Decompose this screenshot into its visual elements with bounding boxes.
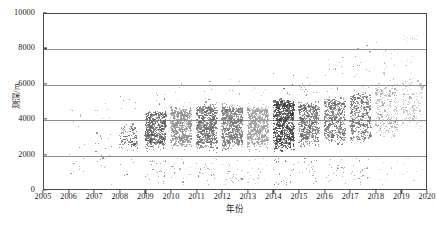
x-tick-2013: 2013 bbox=[239, 193, 256, 201]
x-tick-2014: 2014 bbox=[265, 193, 282, 201]
scatter-chart-figure: 测深/m 0200040006000800010000 200520062007… bbox=[0, 0, 439, 233]
y-tick-mark-0 bbox=[43, 189, 47, 190]
x-tick-2005: 2005 bbox=[35, 193, 52, 201]
x-tick-mark-2008 bbox=[119, 190, 120, 194]
x-tick-2010: 2010 bbox=[163, 193, 180, 201]
x-axis-title: 年份 bbox=[43, 205, 427, 214]
y-tick-10000: 10000 bbox=[14, 9, 35, 17]
y-tick-mark-6000 bbox=[43, 83, 47, 84]
y-tick-mark-4000 bbox=[43, 119, 47, 120]
x-tick-mark-2009 bbox=[145, 190, 146, 194]
x-tick-2016: 2016 bbox=[316, 193, 333, 201]
x-tick-mark-2017 bbox=[350, 190, 351, 194]
x-tick-mark-2014 bbox=[273, 190, 274, 194]
y-tick-6000: 6000 bbox=[18, 80, 35, 88]
x-tick-mark-2020 bbox=[426, 190, 427, 194]
x-tick-mark-2006 bbox=[68, 190, 69, 194]
x-tick-mark-2011 bbox=[196, 190, 197, 194]
x-tick-mark-2012 bbox=[222, 190, 223, 194]
x-tick-2011: 2011 bbox=[188, 193, 204, 201]
x-tick-mark-2007 bbox=[94, 190, 95, 194]
y-tick-2000: 2000 bbox=[18, 150, 35, 158]
x-tick-mark-2016 bbox=[324, 190, 325, 194]
y-axis-tick-labels: 0200040006000800010000 bbox=[0, 13, 40, 190]
x-tick-2018: 2018 bbox=[367, 193, 384, 201]
x-tick-mark-2019 bbox=[401, 190, 402, 194]
x-tick-2019: 2019 bbox=[393, 193, 410, 201]
x-tick-mark-2013 bbox=[247, 190, 248, 194]
y-tick-mark-2000 bbox=[43, 154, 47, 155]
y-tick-mark-10000 bbox=[43, 12, 47, 13]
plot-area bbox=[43, 13, 427, 190]
x-tick-2020: 2020 bbox=[419, 193, 436, 201]
x-tick-mark-2015 bbox=[298, 190, 299, 194]
scatter-points bbox=[44, 14, 426, 189]
y-tick-4000: 4000 bbox=[18, 115, 35, 123]
x-axis-tick-labels: 2005200620072008200920102011201220132014… bbox=[43, 193, 427, 204]
x-tick-2006: 2006 bbox=[60, 193, 77, 201]
x-tick-2008: 2008 bbox=[111, 193, 128, 201]
x-tick-2017: 2017 bbox=[342, 193, 359, 201]
y-tick-8000: 8000 bbox=[18, 44, 35, 52]
x-tick-2015: 2015 bbox=[291, 193, 308, 201]
y-tick-mark-8000 bbox=[43, 48, 47, 49]
x-tick-2012: 2012 bbox=[214, 193, 231, 201]
x-tick-mark-2010 bbox=[170, 190, 171, 194]
x-tick-2009: 2009 bbox=[137, 193, 154, 201]
x-tick-mark-2005 bbox=[42, 190, 43, 194]
x-tick-mark-2018 bbox=[375, 190, 376, 194]
x-tick-2007: 2007 bbox=[86, 193, 103, 201]
